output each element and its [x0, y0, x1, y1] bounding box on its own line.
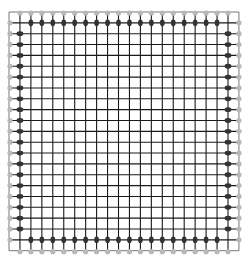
outer-dot: [7, 118, 12, 123]
inner-dot: [138, 236, 143, 243]
inner-dot: [29, 236, 34, 243]
outer-dot: [138, 249, 143, 254]
inner-dot: [83, 236, 88, 243]
outer-dot: [50, 249, 55, 254]
outer-dot: [236, 237, 241, 242]
outer-dot: [105, 249, 110, 254]
inner-dot: [225, 107, 232, 112]
outer-dot: [116, 10, 121, 15]
outer-dot: [236, 96, 241, 101]
outer-dot: [204, 10, 209, 15]
outer-dot: [7, 64, 12, 69]
outer-dot: [138, 10, 143, 15]
inner-dot: [17, 118, 24, 123]
outer-dot: [127, 10, 132, 15]
outer-dot: [7, 226, 12, 231]
inner-dot: [72, 19, 77, 26]
inner-dot: [105, 236, 110, 243]
outer-dot: [7, 42, 12, 47]
outer-dot: [160, 10, 165, 15]
outer-dot: [127, 249, 132, 254]
lattice-svg: [0, 0, 249, 263]
outer-dot: [171, 10, 176, 15]
inner-dot: [39, 19, 44, 26]
inner-dot: [17, 172, 24, 177]
inner-dot: [50, 19, 55, 26]
outer-dot: [7, 161, 12, 166]
inner-dot: [149, 19, 154, 26]
outer-dot: [7, 140, 12, 145]
inner-dot: [94, 19, 99, 26]
inner-dot: [225, 129, 232, 134]
outer-dot: [7, 96, 12, 101]
inner-dot: [215, 19, 220, 26]
outer-dot: [236, 20, 241, 25]
inner-dot: [17, 194, 24, 199]
inner-dot: [17, 183, 24, 188]
outer-dot: [236, 226, 241, 231]
outer-dot: [28, 249, 33, 254]
inner-dot: [193, 19, 198, 26]
outer-dot: [50, 10, 55, 15]
outer-dot: [94, 249, 99, 254]
outer-dot: [225, 249, 230, 254]
outer-dot: [7, 20, 12, 25]
outer-dot: [17, 249, 22, 254]
outer-dot: [17, 10, 22, 15]
inner-dot: [127, 236, 132, 243]
inner-dot: [160, 236, 165, 243]
inner-dot: [127, 19, 132, 26]
inner-dot: [171, 19, 176, 26]
inner-dot: [225, 42, 232, 47]
outer-dot: [7, 172, 12, 177]
inner-dot: [61, 19, 66, 26]
inner-dot: [17, 129, 24, 134]
outer-dot: [236, 183, 241, 188]
inner-dot: [225, 194, 232, 199]
inner-dot: [215, 236, 220, 243]
outer-dot: [236, 42, 241, 47]
outer-dot: [182, 249, 187, 254]
outer-dot: [193, 10, 198, 15]
outer-dot: [236, 53, 241, 58]
outer-dot: [39, 10, 44, 15]
outer-dot: [160, 249, 165, 254]
inner-dot: [182, 236, 187, 243]
outer-dot: [61, 10, 66, 15]
inner-dot: [17, 140, 24, 145]
outer-dot: [204, 249, 209, 254]
inner-dot: [17, 64, 24, 69]
outer-dot: [236, 31, 241, 36]
inner-dot: [105, 19, 110, 26]
outer-dot: [7, 205, 12, 210]
outer-dot: [236, 129, 241, 134]
outer-dot: [236, 161, 241, 166]
outer-dot: [193, 249, 198, 254]
outer-dot: [7, 85, 12, 90]
outer-dot: [28, 10, 33, 15]
inner-dot: [204, 236, 209, 243]
outer-dot: [149, 249, 154, 254]
outer-dot: [182, 10, 187, 15]
inner-dot: [50, 236, 55, 243]
outer-dot: [236, 216, 241, 221]
inner-dot: [138, 19, 143, 26]
outer-dot: [61, 249, 66, 254]
outer-dot: [39, 249, 44, 254]
inner-dot: [171, 236, 176, 243]
outer-dot: [236, 64, 241, 69]
inner-dot: [17, 86, 24, 91]
inner-dot: [225, 140, 232, 145]
outer-dot: [171, 249, 176, 254]
inner-dot: [116, 19, 121, 26]
outer-dot: [7, 129, 12, 134]
inner-dot: [17, 205, 24, 210]
outer-dot: [7, 194, 12, 199]
inner-dot: [225, 162, 232, 167]
inner-dot: [17, 53, 24, 58]
outer-dot: [214, 249, 219, 254]
inner-dot: [225, 183, 232, 188]
inner-dot: [225, 205, 232, 210]
inner-dot: [17, 107, 24, 112]
inner-dot: [193, 236, 198, 243]
